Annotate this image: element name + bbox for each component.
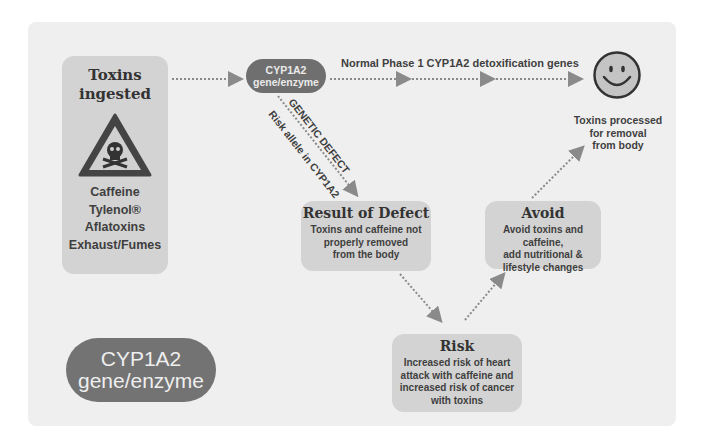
avoid-title: Avoid (485, 205, 601, 222)
legend-line2: gene/enzyme (66, 370, 216, 392)
outcome-label: Toxins processed for removal from body (568, 114, 668, 152)
smiley-face-icon (592, 50, 642, 104)
outcome-line2: for removal (568, 127, 668, 140)
toxins-title-line1: Toxins (62, 66, 168, 85)
arrow-risk-to-avoid (465, 275, 503, 320)
avoid-line2: add nutritional & (485, 249, 601, 262)
risk-line3: increased risk of cancer (392, 382, 522, 395)
legend-line1: CYP1A2 (66, 348, 216, 370)
risk-line4: with toxins (392, 395, 522, 408)
result-title: Result of Defect (301, 205, 431, 222)
arrow-avoid-to-outcome (532, 148, 582, 198)
toxin-item: Caffeine (62, 184, 168, 202)
outcome-line1: Toxins processed (568, 114, 668, 127)
result-line2: properly removed (301, 237, 431, 250)
toxin-item: Exhaust/Fumes (62, 237, 168, 255)
avoid-line1: Avoid toxins and caffeine, (485, 224, 601, 249)
cyp1a2-legend-pill: CYP1A2 gene/enzyme (66, 338, 216, 402)
result-of-defect-box: Result of Defect Toxins and caffeine not… (301, 201, 431, 271)
toxins-title-line2: ingested (62, 85, 168, 104)
risk-line2: attack with caffeine and (392, 370, 522, 383)
toxins-ingested-box: Toxins ingested Caffeine Tylenol® Aflato… (62, 56, 168, 274)
outcome-line3: from body (568, 139, 668, 152)
arrow-result-to-risk (400, 274, 440, 320)
avoid-line3: lifestyle changes (485, 262, 601, 275)
result-line1: Toxins and caffeine not (301, 224, 431, 237)
result-line3: from the body (301, 249, 431, 262)
warning-skull-icon (77, 112, 153, 178)
risk-line1: Increased risk of heart (392, 357, 522, 370)
risk-box: Risk Increased risk of heart attack with… (392, 334, 522, 412)
avoid-box: Avoid Avoid toxins and caffeine, add nut… (485, 201, 601, 269)
toxin-item: Tylenol® (62, 202, 168, 220)
normal-path-label: Normal Phase 1 CYP1A2 detoxification gen… (341, 57, 579, 69)
gene-node-line1: CYP1A2 (246, 64, 326, 76)
risk-title: Risk (392, 338, 522, 355)
toxin-item: Aflatoxins (62, 219, 168, 237)
gene-node-line2: gene/enzyme (246, 76, 326, 88)
cyp1a2-gene-node: CYP1A2 gene/enzyme (246, 59, 326, 93)
